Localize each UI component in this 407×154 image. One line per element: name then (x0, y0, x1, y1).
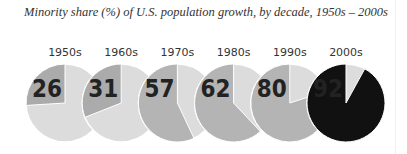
value-label: 57 (144, 75, 174, 103)
value-label: 80 (257, 75, 287, 103)
decade-label: 1980s (217, 46, 251, 59)
value-label: 92 (313, 75, 343, 103)
value-label: 31 (88, 75, 118, 103)
value-label: 26 (32, 75, 62, 103)
pie-2000s: 2000s92 (307, 46, 385, 142)
decade-label: 2000s (329, 46, 363, 59)
decade-label: 1960s (104, 46, 138, 59)
pie-chart-row: 1950s261960s311970s571980s621990s802000s… (0, 0, 407, 154)
decade-label: 1950s (48, 46, 82, 59)
decade-label: 1990s (273, 46, 307, 59)
value-label: 62 (201, 75, 231, 103)
decade-label: 1970s (161, 46, 195, 59)
